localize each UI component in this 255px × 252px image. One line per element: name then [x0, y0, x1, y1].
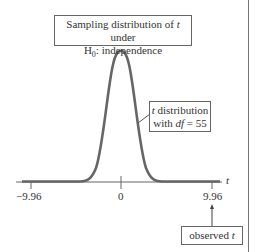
tick-label-zero: 0: [118, 190, 124, 203]
observed-t-box: observed t: [181, 226, 243, 245]
curve-label-text: distribution: [155, 104, 208, 116]
axis-var-label: t: [226, 174, 229, 187]
observed-arrow-head: [210, 204, 214, 209]
df-var: df: [176, 117, 185, 129]
df-prefix: with: [153, 117, 175, 129]
hypothesis-text: : independence: [96, 44, 162, 56]
tick-label-pos: 9.96: [203, 190, 222, 203]
curve-label-line-1: t distribution: [150, 104, 210, 117]
observed-text: observed: [189, 229, 231, 241]
title-var: t: [177, 18, 180, 30]
title-line-1: Sampling distribution of t under: [55, 18, 191, 44]
tick-label-neg: −9.96: [16, 190, 41, 203]
title-box: Sampling distribution of t under H0: ind…: [54, 15, 192, 46]
curve-label-line-2: with df = 55: [150, 117, 210, 130]
title-line-2: H0: independence: [55, 44, 191, 57]
hypothesis-symbol: H: [84, 44, 92, 56]
df-value: = 55: [184, 117, 207, 129]
observed-var: t: [232, 229, 235, 241]
title-text: Sampling distribution of: [66, 18, 176, 30]
curve-label-box: t distribution with df = 55: [149, 101, 211, 132]
title-suffix: under: [110, 31, 135, 43]
